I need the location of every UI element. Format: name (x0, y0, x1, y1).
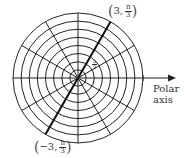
point-label-3-pi-over-3: (3,π3) (108, 3, 137, 19)
polar-axis-label: Polar axis (153, 83, 179, 105)
polar-grid (0, 0, 184, 158)
arrow-head-icon (168, 75, 176, 82)
point-label-neg3-pi-over-3: (−3,π3) (34, 139, 71, 155)
polar-axis-label-line2: axis (153, 94, 179, 105)
polar-axis-label-line1: Polar (153, 83, 179, 94)
angle-label: π3 (90, 59, 97, 70)
